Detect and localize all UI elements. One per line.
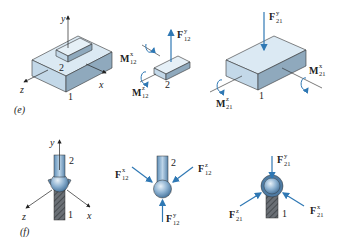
body-1-label: 1 [68,209,73,220]
axis-z-label: z [21,211,26,222]
force-label: F [310,205,316,216]
axis-y-label: y [49,137,55,148]
axis-y-label: y [60,13,66,24]
force-sup: y [276,9,280,16]
body-2-label: 2 [59,62,64,73]
panel-f-label: (f) [20,226,30,238]
panel-e-middle-body-2: 2 F y 12 M x 12 M z 12 [120,27,191,99]
body-1-label: 1 [68,91,73,102]
body-2-label: 2 [69,155,74,166]
force-label: F [177,29,183,40]
force-sup: y [284,152,288,159]
force-sub: 21 [284,160,291,167]
force-sub: 12 [184,35,191,42]
body-2-label: 2 [165,79,170,90]
force-sup: x [317,203,321,210]
force-label: F [269,11,275,22]
moment-sup: z [226,95,229,102]
moment-label: M [132,87,142,98]
moment-label: M [309,65,319,76]
moment-sup: x [130,50,134,57]
joint-reaction-diagram: y x z 2 1 (e) 2 F y 12 M x 12 M z 12 1 [0,0,342,242]
force-sup: z [236,207,239,214]
force-sup: y [173,211,177,218]
force-label: F [198,163,204,174]
force-sub: 12 [205,169,212,176]
force-label: F [229,209,235,220]
force-sub: 21 [317,211,324,218]
panel-f-left-assembly: y x z 2 1 [21,137,92,222]
moment-sub: 12 [142,92,149,99]
force-sub: 12 [173,219,180,226]
panel-e-label: (e) [14,104,26,116]
panel-f-middle-body-2: 2 F x 12 F z 12 F y 12 [115,156,212,226]
moment-sup: x [319,62,323,69]
force-sup: z [205,161,208,168]
moment-label: M [216,98,226,109]
body-1-label: 1 [259,90,264,101]
panel-e-right-body-1: 1 F y 21 M x 21 M z 21 [210,9,326,110]
axis-x-label: x [98,79,104,90]
body-1-label: 1 [282,208,287,219]
moment-sub: 12 [130,58,137,65]
panel-e-left-assembly: y x z 2 1 [19,13,112,102]
force-sub: 21 [276,17,283,24]
force-label: F [166,213,172,224]
force-sup: y [184,27,188,34]
force-sub: 12 [122,174,129,181]
axis-x-label: x [86,210,92,221]
body-2-label: 2 [171,157,176,168]
axis-z-label: z [19,84,24,95]
moment-sub: 21 [226,103,233,110]
panel-f-right-body-1: 1 F y 21 F z 21 F x 21 [229,152,324,222]
force-label: F [277,154,283,165]
moment-label: M [120,53,130,64]
force-sub: 21 [236,215,243,222]
moment-sup: z [142,84,145,91]
force-sup: x [122,166,126,173]
moment-sub: 21 [319,70,326,77]
force-label: F [115,169,121,180]
